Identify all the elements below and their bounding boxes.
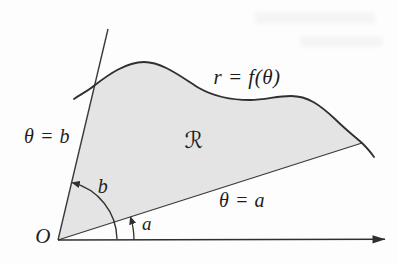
theta-a-label: θ = a xyxy=(219,190,265,210)
polar-region-figure: θ = b θ = a r = f(θ) ℛ b a O xyxy=(0,0,398,265)
curve-equation-label: r = f(θ) xyxy=(214,67,281,88)
origin-label: O xyxy=(35,226,51,247)
polar-axis xyxy=(58,239,385,240)
angle-a-label: a xyxy=(142,214,152,233)
theta-b-label: θ = b xyxy=(24,126,70,146)
region-shape xyxy=(58,62,362,240)
angle-a-arc xyxy=(130,217,134,240)
region-name-label: ℛ xyxy=(185,129,204,152)
angle-b-label: b xyxy=(98,176,109,196)
